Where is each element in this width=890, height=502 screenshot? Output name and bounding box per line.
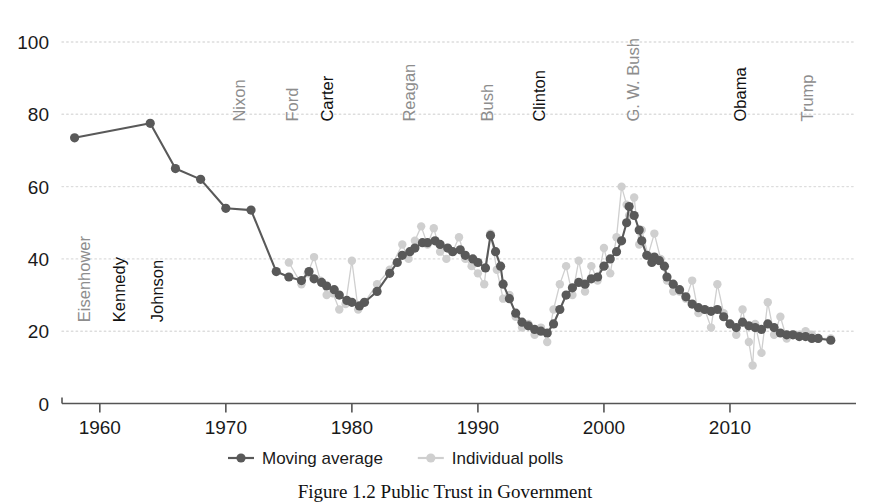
president-label-bush: Bush — [478, 84, 496, 122]
y-tick-40: 40 — [28, 249, 49, 270]
y-axis-tick-labels: 020406080100 — [17, 32, 49, 415]
x-tick-1990: 1990 — [457, 417, 499, 438]
x-tick-2010: 2010 — [709, 417, 751, 438]
y-tick-20: 20 — [28, 321, 49, 342]
president-label-ford: Ford — [283, 88, 301, 122]
axes — [62, 398, 856, 413]
x-tick-2000: 2000 — [583, 417, 625, 438]
president-label-reagan: Reagan — [400, 64, 418, 122]
x-tick-1980: 1980 — [331, 417, 373, 438]
legend-label-moving-average: Moving average — [262, 449, 383, 468]
trust-in-government-chart: 020406080100 196019701980199020002010 Ei… — [0, 0, 890, 502]
president-label-trump: Trump — [798, 74, 816, 121]
president-label-carter: Carter — [318, 75, 336, 121]
figure-caption: Figure 1.2 Public Trust in Government — [0, 481, 890, 502]
president-label-johnson: Johnson — [148, 260, 166, 322]
moving-average-series — [70, 119, 835, 345]
legend-label-individual-polls: Individual polls — [452, 449, 564, 468]
y-tick-60: 60 — [28, 177, 49, 198]
x-tick-1970: 1970 — [205, 417, 247, 438]
president-label-clinton: Clinton — [530, 70, 548, 121]
president-label-nixon: Nixon — [230, 79, 248, 121]
figure-container: 020406080100 196019701980199020002010 Ei… — [0, 0, 890, 502]
x-axis-tick-labels: 196019701980199020002010 — [79, 417, 751, 438]
y-tick-80: 80 — [28, 104, 49, 125]
president-label-g-w-bush: G. W. Bush — [624, 38, 642, 121]
president-label-obama: Obama — [731, 67, 749, 122]
individual-polls-series — [285, 182, 835, 369]
chart-legend: Moving averageIndividual polls — [228, 449, 563, 468]
y-tick-0: 0 — [38, 394, 49, 415]
president-label-kennedy: Kennedy — [110, 256, 128, 322]
president-label-eisenhower: Eisenhower — [75, 235, 93, 322]
president-annotations: EisenhowerKennedyJohnsonNixonFordCarterR… — [75, 38, 816, 322]
x-tick-1960: 1960 — [79, 417, 121, 438]
y-tick-100: 100 — [17, 32, 49, 53]
